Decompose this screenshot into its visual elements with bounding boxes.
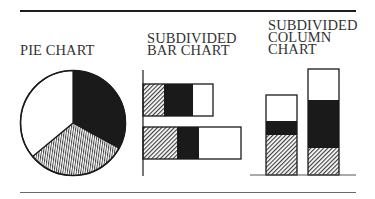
column-segment-black (266, 121, 297, 135)
bar-segment-white (193, 84, 213, 116)
column-segment-white (308, 69, 339, 100)
bar-segment-black (177, 127, 199, 159)
bar-segment-hatched (143, 84, 164, 116)
subdivided-column-chart (250, 69, 356, 175)
subdivided-bar-chart (143, 70, 241, 176)
pie-chart (21, 71, 126, 176)
bar-segment-white (199, 127, 241, 159)
bar-segment-hatched (143, 127, 177, 159)
column-segment-hatched (266, 135, 297, 175)
column-segment-black (308, 100, 339, 148)
column-segment-hatched (308, 148, 339, 175)
charts-canvas (0, 0, 375, 199)
bar-segment-black (164, 84, 193, 116)
column-segment-white (266, 95, 297, 121)
